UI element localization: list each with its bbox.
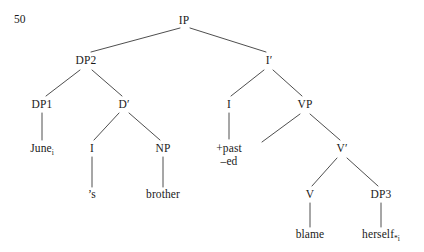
branch-vbar-to-dp3 <box>347 158 378 186</box>
branch-vbar-to-v <box>312 158 337 186</box>
leaf-inflection-features: +past–ed <box>216 142 242 168</box>
branch-dbar-to-np <box>129 113 160 140</box>
branch-dbar-to-i-poss <box>94 113 119 140</box>
leaf-blame: blame <box>296 228 325 241</box>
branch-dp2-to-dbar <box>92 70 122 96</box>
inflection-feature-ed: –ed <box>216 155 242 168</box>
node-dp2: DP2 <box>76 54 97 67</box>
branch-dp2-to-dp1 <box>46 70 80 96</box>
branch-vp-to-spec <box>262 114 300 142</box>
node-i-bar: I′ <box>266 54 273 67</box>
node-i-possessive: I <box>90 142 94 155</box>
node-np: NP <box>156 142 171 155</box>
node-v-bar: V′ <box>336 142 347 155</box>
node-vp: VP <box>298 98 313 111</box>
node-d-bar: D′ <box>118 98 129 111</box>
leaf-possessive-s: ’s <box>88 188 96 201</box>
tree-branches <box>0 0 424 252</box>
branch-ip-to-ibar <box>190 28 266 52</box>
node-dp3: DP3 <box>371 188 392 201</box>
leaf-herself-text: herself <box>362 228 394 240</box>
leaf-herself: herself*i <box>362 228 400 244</box>
node-v: V <box>306 188 314 201</box>
node-dp1: DP1 <box>32 98 53 111</box>
node-ip: IP <box>179 14 189 27</box>
inflection-feature-past: +past <box>216 142 242 154</box>
node-i-inflection: I <box>227 98 231 111</box>
leaf-june-index: i <box>52 148 54 157</box>
branch-ibar-to-vp <box>273 70 302 96</box>
branch-vp-to-vbar <box>310 114 340 140</box>
leaf-june: Junei <box>30 142 54 158</box>
branch-ip-to-dp2 <box>91 28 180 52</box>
syntax-tree-figure: 50 IP DP2 I′ DP1 D′ I VP Junei I NP +pas… <box>0 0 424 252</box>
leaf-herself-index: *i <box>394 234 400 243</box>
leaf-brother: brother <box>146 188 180 201</box>
branch-ibar-to-i <box>231 70 264 96</box>
leaf-june-text: June <box>30 142 51 154</box>
